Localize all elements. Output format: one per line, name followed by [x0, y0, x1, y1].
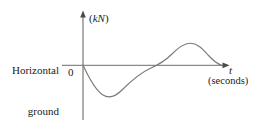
series-caption: Horizontal ground reaction force [2, 37, 59, 129]
y-axis-unit-close-paren: ) [105, 12, 109, 24]
horizontal-ground-reaction-force-figure: (kN) 0 t (seconds) Horizontal ground rea… [0, 0, 259, 129]
force-time-curve [83, 43, 222, 97]
x-axis-unit-label: (seconds) [208, 75, 248, 87]
origin-label: 0 [68, 66, 74, 79]
y-axis-arrowhead-icon [80, 11, 86, 18]
series-caption-line-2: ground [2, 105, 59, 119]
series-caption-line-1: Horizontal [2, 64, 59, 78]
x-axis [62, 62, 230, 68]
y-axis-unit-label: (kN) [89, 12, 109, 25]
y-axis-unit-symbol: kN [93, 12, 105, 24]
